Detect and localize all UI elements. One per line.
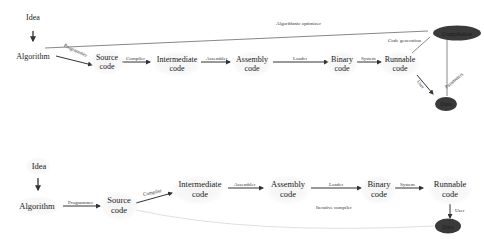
bottom-node-data: Data — [435, 219, 461, 234]
label-line: Runnable — [385, 55, 416, 64]
label-line: Source — [107, 195, 131, 205]
top-node-compilation: Compilation — [433, 26, 481, 41]
label-line: code — [385, 64, 416, 73]
top-edge-compiler: Compiler — [126, 56, 145, 61]
label-line: Source — [96, 53, 118, 62]
label-line: code — [179, 189, 222, 199]
top-node-idea: Idea — [26, 13, 40, 22]
label-line: Intermediate — [157, 55, 197, 64]
label-line: code — [331, 64, 353, 73]
bottom-edge-system: System — [400, 182, 415, 187]
top-edge-assembler: Assembler — [206, 56, 227, 61]
top-edge-code-generation: Code generation — [388, 38, 421, 43]
top-node-assembly-code: Assembly code — [236, 55, 268, 73]
label-line: Intermediate — [179, 179, 222, 189]
top-edge-system: System — [361, 56, 376, 61]
bottom-node-source-code: Source code — [107, 195, 131, 215]
top-edge-algorithmic-optimizer: Algorithmic optimizer — [276, 21, 321, 26]
bottom-edge-iterative-compiler: Iterative compiler — [316, 205, 352, 210]
label-line: Runnable — [434, 179, 467, 189]
label-line: code — [96, 62, 118, 71]
top-node-source-code: Source code — [96, 53, 118, 71]
label-line: code — [271, 189, 305, 199]
top-node-algorithm: Algorithm — [16, 52, 49, 61]
label-line: Assembly — [271, 179, 305, 189]
bottom-node-algorithm: Algorithm — [19, 201, 54, 211]
label-line: code — [157, 64, 197, 73]
bottom-edge-programmer: Programmer — [68, 200, 93, 205]
top-node-runnable-code: Runnable code — [385, 55, 416, 73]
label-line: Assembly — [236, 55, 268, 64]
bottom-node-assembly-code: Assembly code — [271, 179, 305, 199]
top-node-data: Data — [435, 97, 457, 111]
label-line: Binary — [367, 179, 390, 189]
top-node-intermediate-code: Intermediate code — [157, 55, 197, 73]
bottom-node-runnable-code: Runnable code — [434, 179, 467, 199]
bottom-node-binary-code: Binary code — [367, 179, 390, 199]
bottom-node-intermediate-code: Intermediate code — [179, 179, 222, 199]
bottom-node-idea: Idea — [32, 161, 47, 171]
label-line: code — [107, 205, 131, 215]
label-line: code — [367, 189, 390, 199]
bottom-edge-assembler: Assembler — [234, 182, 255, 187]
label-line: Binary — [331, 55, 353, 64]
bottom-edge-loader: Loader — [329, 182, 343, 187]
top-node-binary-code: Binary code — [331, 55, 353, 73]
label-line: code — [236, 64, 268, 73]
bottom-edge-user: User — [455, 208, 464, 213]
label-line: code — [434, 189, 467, 199]
top-edge-loader: Loader — [293, 56, 307, 61]
